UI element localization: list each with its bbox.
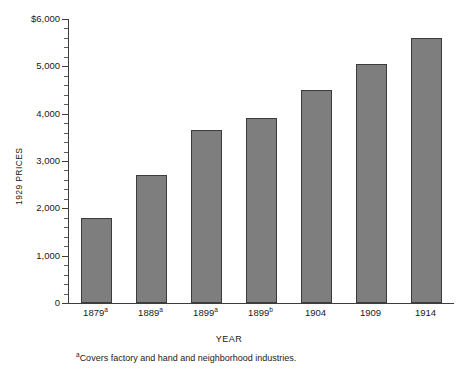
y-axis-minor-tick xyxy=(64,152,68,153)
y-axis-major-tick xyxy=(62,208,68,209)
y-axis-minor-tick xyxy=(64,284,68,285)
x-axis-tick-labels: 1879a1889a1899a1899b190419091914 xyxy=(68,308,454,324)
bar xyxy=(301,90,332,303)
x-axis-tick-label-text: 1899 xyxy=(193,307,214,318)
y-axis-minor-tick xyxy=(64,133,68,134)
y-axis-minor-tick xyxy=(64,218,68,219)
x-axis-tick-label-footnote-marker: a xyxy=(214,306,218,313)
y-axis-minor-tick xyxy=(64,28,68,29)
x-axis-tick-label-text: 1889 xyxy=(138,307,159,318)
y-axis-major-tick xyxy=(62,161,68,162)
x-axis-tick-label-text: 1914 xyxy=(415,307,436,318)
y-axis-minor-tick xyxy=(64,85,68,86)
y-axis-minor-tick xyxy=(64,95,68,96)
x-axis-tick-label-footnote-marker: b xyxy=(269,306,273,313)
plot-area: 01,0002,0003,0004,0005,000$6,000 xyxy=(68,19,454,303)
y-axis-tick-labels: 01,0002,0003,0004,0005,000$6,000 xyxy=(6,19,60,304)
y-axis-tick-label: 5,000 xyxy=(36,61,60,71)
footnote-text: Covers factory and hand and neighborhood… xyxy=(80,353,297,363)
y-axis-minor-tick xyxy=(64,227,68,228)
x-axis-tick-label: 1889a xyxy=(123,308,178,318)
x-axis-tick-label: 1914 xyxy=(398,308,453,318)
bar xyxy=(356,64,387,303)
x-axis-tick-label-text: 1879 xyxy=(83,307,104,318)
y-axis-minor-tick xyxy=(64,275,68,276)
bar-series xyxy=(69,19,454,303)
y-axis-minor-tick xyxy=(64,170,68,171)
x-axis-tick-label-text: 1899 xyxy=(248,307,269,318)
y-axis-minor-tick xyxy=(64,189,68,190)
y-axis-tick-label: 1,000 xyxy=(36,251,60,261)
y-axis-minor-tick xyxy=(64,123,68,124)
x-axis-tick-label-text: 1904 xyxy=(305,307,326,318)
x-axis-tick-label: 1899a xyxy=(178,308,233,318)
y-axis-tick-label: $6,000 xyxy=(31,14,60,24)
x-axis-tick-label-text: 1909 xyxy=(360,307,381,318)
x-axis-tick-label: 1904 xyxy=(288,308,343,318)
x-axis-tick-label: 1899b xyxy=(233,308,288,318)
y-axis-minor-tick xyxy=(64,237,68,238)
y-axis-major-tick xyxy=(62,66,68,67)
chart-figure: 1929 PRICES 01,0002,0003,0004,0005,000$6… xyxy=(0,0,458,373)
y-axis-tick-label: 2,000 xyxy=(36,203,60,213)
bar xyxy=(246,118,277,303)
y-axis-minor-tick xyxy=(64,199,68,200)
y-axis-minor-tick xyxy=(64,104,68,105)
y-axis-minor-tick xyxy=(64,294,68,295)
y-axis-minor-tick xyxy=(64,265,68,266)
x-axis-tick-label-footnote-marker: a xyxy=(159,306,163,313)
y-axis-major-tick xyxy=(62,256,68,257)
bar xyxy=(411,38,442,303)
x-axis-tick-label: 1909 xyxy=(343,308,398,318)
x-axis-line xyxy=(68,303,454,304)
y-axis-minor-tick xyxy=(64,180,68,181)
y-axis-tick-label: 4,000 xyxy=(36,109,60,119)
y-axis-minor-tick xyxy=(64,76,68,77)
footnote: aCovers factory and hand and neighborhoo… xyxy=(76,353,296,363)
y-axis-major-tick xyxy=(62,114,68,115)
bar xyxy=(136,175,167,303)
y-axis-minor-tick xyxy=(64,142,68,143)
y-axis-minor-tick xyxy=(64,38,68,39)
x-axis-tick-label: 1879a xyxy=(68,308,123,318)
bar xyxy=(191,130,222,303)
x-axis-title: YEAR xyxy=(0,334,458,344)
y-axis-major-tick xyxy=(62,303,68,304)
bar xyxy=(81,218,112,303)
y-axis-tick-label: 3,000 xyxy=(36,156,60,166)
y-axis-minor-tick xyxy=(64,246,68,247)
x-axis-tick-label-footnote-marker: a xyxy=(104,306,108,313)
y-axis-minor-tick xyxy=(64,47,68,48)
y-axis-tick-label: 0 xyxy=(55,298,60,308)
y-axis-minor-tick xyxy=(64,57,68,58)
y-axis-major-tick xyxy=(62,19,68,20)
